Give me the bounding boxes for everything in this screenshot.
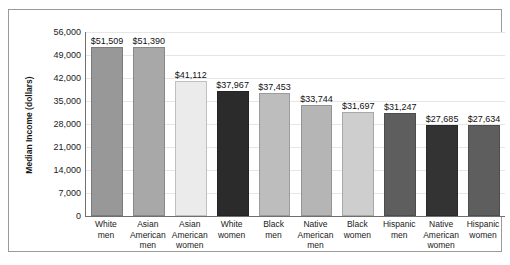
- x-axis-label-line: Native: [295, 219, 337, 230]
- bar[interactable]: [468, 125, 500, 216]
- x-axis-label-line: Hispanic: [462, 219, 504, 230]
- bar-value-label: $31,697: [342, 101, 375, 111]
- x-axis-label-line: American: [127, 230, 169, 241]
- bar-slot: $51,390: [128, 32, 170, 216]
- bar-slot: $31,247: [379, 32, 421, 216]
- x-axis-label-line: Black: [336, 219, 378, 230]
- x-axis-label-line: men: [127, 240, 169, 251]
- y-axis-tick-label: 21,000: [53, 142, 81, 152]
- x-axis-label: Blackmen: [253, 219, 295, 240]
- bar[interactable]: [133, 47, 165, 216]
- x-axis-label-line: women: [336, 230, 378, 241]
- x-axis-label-line: White: [211, 219, 253, 230]
- x-axis-label: Whitemen: [85, 219, 127, 240]
- x-axis-label: Hispanicwomen: [462, 219, 504, 240]
- x-axis-label-line: Asian: [127, 219, 169, 230]
- x-axis-label-line: men: [295, 240, 337, 251]
- bar[interactable]: [259, 93, 291, 216]
- bar-value-label: $51,390: [133, 36, 166, 46]
- x-axis-label: Blackwomen: [336, 219, 378, 240]
- x-axis-label-line: women: [211, 230, 253, 241]
- bar-slot: $37,967: [212, 32, 254, 216]
- bar[interactable]: [175, 81, 207, 216]
- x-axis-label-line: Hispanic: [378, 219, 420, 230]
- x-axis-label: AsianAmericanmen: [127, 219, 169, 251]
- y-axis-tick-label: 14,000: [53, 165, 81, 175]
- x-axis-label-line: men: [85, 230, 127, 241]
- y-axis-title-label: Median Income (dollars): [24, 76, 34, 173]
- bar-value-label: $37,453: [258, 82, 291, 92]
- bar-slot: $31,697: [337, 32, 379, 216]
- x-axis-label-line: women: [420, 240, 462, 251]
- bar-slot: $51,509: [86, 32, 128, 216]
- bar-value-label: $41,112: [175, 70, 207, 80]
- bar-value-label: $27,685: [426, 114, 459, 124]
- bar-slot: $37,453: [254, 32, 296, 216]
- bar-slot: $41,112: [170, 32, 212, 216]
- x-axis-label: AsianAmericanwomen: [169, 219, 211, 251]
- bar-value-label: $33,744: [300, 94, 333, 104]
- x-axis-label-line: women: [462, 230, 504, 241]
- y-axis-title: Median Income (dollars): [21, 30, 37, 220]
- x-axis-label-line: Black: [253, 219, 295, 230]
- bar[interactable]: [426, 125, 458, 216]
- plot-area: $51,509$51,390$41,112$37,967$37,453$33,7…: [85, 32, 505, 217]
- x-axis-label: Hispanicmen: [378, 219, 420, 240]
- x-axis-label-line: women: [169, 240, 211, 251]
- x-axis-label-line: American: [420, 230, 462, 241]
- x-axis-label: NativeAmericanmen: [295, 219, 337, 251]
- x-axis-label-line: American: [295, 230, 337, 241]
- y-axis-tick-label: 0: [76, 211, 81, 221]
- y-axis-tick-label: 35,000: [53, 96, 81, 106]
- x-axis-label-line: men: [378, 230, 420, 241]
- bar-series: $51,509$51,390$41,112$37,967$37,453$33,7…: [86, 32, 505, 216]
- bar-slot: $33,744: [296, 32, 338, 216]
- bar[interactable]: [91, 47, 123, 216]
- x-axis-label: Whitewomen: [211, 219, 253, 240]
- y-axis-tick-label: 56,000: [53, 27, 81, 37]
- y-axis-tick-label: 7,000: [58, 188, 81, 198]
- y-axis-tick-label: 49,000: [53, 50, 81, 60]
- bar[interactable]: [301, 105, 333, 216]
- bar-slot: $27,634: [463, 32, 505, 216]
- y-axis-tick-labels: 07,00014,00021,00028,00035,00042,00049,0…: [37, 32, 81, 216]
- x-axis-label-line: American: [169, 230, 211, 241]
- chart-frame: Median Income (dollars) 07,00014,00021,0…: [8, 9, 502, 252]
- bar[interactable]: [217, 91, 249, 216]
- y-axis-tick-label: 42,000: [53, 73, 81, 83]
- bar-value-label: $51,509: [91, 36, 124, 46]
- bar-value-label: $27,634: [468, 114, 501, 124]
- bar[interactable]: [342, 112, 374, 216]
- bar-value-label: $37,967: [216, 80, 249, 90]
- x-axis-label-line: men: [253, 230, 295, 241]
- x-axis-category-labels: WhitemenAsianAmericanmenAsianAmericanwom…: [85, 219, 504, 259]
- bar-slot: $27,685: [421, 32, 463, 216]
- bar-value-label: $31,247: [384, 102, 417, 112]
- x-axis-label: NativeAmericanwomen: [420, 219, 462, 251]
- x-axis-label-line: White: [85, 219, 127, 230]
- x-axis-label-line: Native: [420, 219, 462, 230]
- x-axis-label-line: Asian: [169, 219, 211, 230]
- bar[interactable]: [384, 113, 416, 216]
- figure: Median Income (dollars) 07,00014,00021,0…: [0, 0, 510, 265]
- y-axis-tick-label: 28,000: [53, 119, 81, 129]
